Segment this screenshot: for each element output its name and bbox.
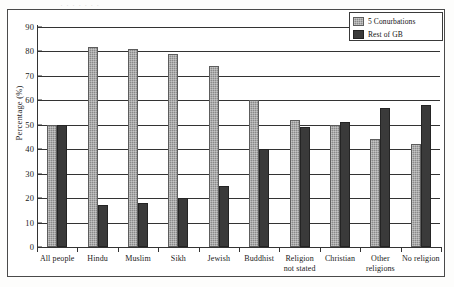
legend-item-rest-of-gb: Rest of GB xyxy=(353,28,439,40)
x-tick-mark xyxy=(199,247,200,252)
x-axis-label: Muslim xyxy=(125,254,151,263)
bar-rest-of-gb xyxy=(421,105,431,247)
bar-rest-of-gb xyxy=(259,149,269,247)
chart-figure: · · · · · · · Percentage (%) 01020304050… xyxy=(0,0,454,287)
y-tick-label-20: 20 xyxy=(25,193,34,203)
y-tick-label-50: 50 xyxy=(25,120,34,130)
x-axis-label: All people xyxy=(40,254,75,263)
x-tick-mark xyxy=(320,247,321,252)
bar-group xyxy=(88,0,108,247)
x-tick-mark xyxy=(279,247,280,252)
y-tick-label-10: 10 xyxy=(25,218,34,228)
x-label-line1: Jewish xyxy=(208,254,230,263)
bar-group xyxy=(128,0,148,247)
bar-group xyxy=(168,0,188,247)
x-label-line1: Religion xyxy=(285,254,313,263)
x-label-line1: Hindu xyxy=(87,254,108,263)
x-label-line1: Christian xyxy=(325,254,355,263)
bar-conurbations xyxy=(88,47,98,247)
x-axis-label: Otherreligions xyxy=(366,254,395,273)
bar-conurbations xyxy=(411,144,421,247)
y-tick-label-0: 0 xyxy=(30,242,34,252)
x-axis-label: Sikh xyxy=(171,254,186,263)
x-tick-mark xyxy=(239,247,240,252)
legend-swatch-dark-icon xyxy=(353,30,364,39)
y-tick-label-30: 30 xyxy=(25,169,34,179)
y-tick-label-70: 70 xyxy=(25,71,34,81)
bar-group xyxy=(47,0,67,247)
x-tick-mark xyxy=(118,247,119,252)
bar-conurbations xyxy=(128,49,138,247)
bar-conurbations xyxy=(209,66,219,247)
x-axis-label: Buddhist xyxy=(244,254,274,263)
y-tick-label-90: 90 xyxy=(25,22,34,32)
y-tick-label-80: 80 xyxy=(25,46,34,56)
legend-label-conurbations: 5 Conurbations xyxy=(368,17,415,26)
legend-label-rest-of-gb: Rest of GB xyxy=(368,30,403,39)
bar-group xyxy=(209,0,229,247)
bar-rest-of-gb xyxy=(300,127,310,247)
x-label-line1: Sikh xyxy=(171,254,186,263)
bar-conurbations xyxy=(290,120,300,247)
x-label-line1: Other xyxy=(371,254,390,263)
x-tick-mark xyxy=(360,247,361,252)
bar-conurbations xyxy=(330,125,340,247)
y-tick-label-40: 40 xyxy=(25,144,34,154)
x-tick-mark xyxy=(441,247,442,252)
x-tick-mark xyxy=(37,247,38,252)
y-axis-ticks: 0102030405060708090 xyxy=(10,0,34,287)
x-axis-label: Religionnot stated xyxy=(284,254,316,273)
legend-item-conurbations: 5 Conurbations xyxy=(353,15,439,27)
bar-conurbations xyxy=(168,54,178,247)
x-label-line1: Muslim xyxy=(125,254,151,263)
x-axis-ticks: All peopleHinduMuslimSikhJewishBuddhistR… xyxy=(37,247,441,287)
x-axis-label: Christian xyxy=(325,254,355,263)
bar-conurbations xyxy=(249,100,259,247)
bar-rest-of-gb xyxy=(340,122,350,247)
bar-rest-of-gb xyxy=(380,108,390,247)
bar-rest-of-gb xyxy=(138,203,148,247)
bar-group xyxy=(330,0,350,247)
bar-rest-of-gb xyxy=(98,205,108,247)
y-tick-label-60: 60 xyxy=(25,95,34,105)
bar-rest-of-gb xyxy=(178,198,188,247)
x-label-line1: All people xyxy=(40,254,75,263)
x-axis-label: Hindu xyxy=(87,254,108,263)
x-tick-mark xyxy=(77,247,78,252)
legend-swatch-light-icon xyxy=(353,17,364,26)
bar-conurbations xyxy=(370,139,380,247)
chart-legend: 5 Conurbations Rest of GB xyxy=(349,12,443,41)
bar-rest-of-gb xyxy=(219,186,229,247)
bar-group xyxy=(249,0,269,247)
x-label-line1: No religion xyxy=(402,254,440,263)
x-label-line2: religions xyxy=(366,264,395,273)
bar-conurbations xyxy=(47,125,57,247)
x-label-line2: not stated xyxy=(284,264,316,273)
bar-group xyxy=(290,0,310,247)
bar-rest-of-gb xyxy=(57,125,67,247)
x-axis-label: Jewish xyxy=(208,254,230,263)
x-label-line1: Buddhist xyxy=(244,254,274,263)
x-tick-mark xyxy=(158,247,159,252)
x-tick-mark xyxy=(401,247,402,252)
x-axis-label: No religion xyxy=(402,254,440,263)
